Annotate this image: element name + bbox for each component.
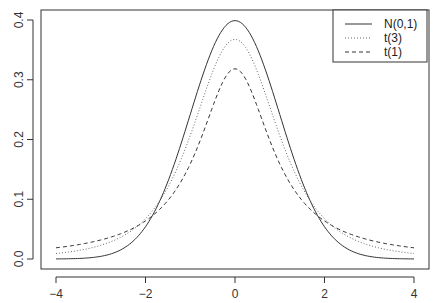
density-chart: −4−2024 0.00.10.20.30.4 N(0,1) t(3) t(1): [0, 0, 437, 303]
x-tick-label: −2: [139, 287, 153, 301]
x-tick-label: 4: [411, 287, 418, 301]
x-tick-label: 0: [232, 287, 239, 301]
y-tick-label: 0.2: [12, 131, 26, 148]
legend: N(0,1) t(3) t(1): [333, 10, 427, 62]
y-axis: 0.00.10.20.30.4: [12, 11, 33, 267]
legend-label-normal: N(0,1): [384, 17, 417, 31]
legend-label-t1: t(1): [384, 45, 402, 59]
x-tick-label: 2: [321, 287, 328, 301]
y-tick-label: 0.3: [12, 71, 26, 88]
y-tick-label: 0.4: [12, 11, 26, 28]
y-tick-label: 0.0: [12, 250, 26, 267]
y-tick-label: 0.1: [12, 191, 26, 208]
x-axis: −4−2024: [49, 277, 418, 301]
legend-label-t3: t(3): [384, 31, 402, 45]
curve-t-3-: [56, 39, 414, 253]
curve-t-1-: [56, 69, 414, 248]
x-tick-label: −4: [49, 287, 63, 301]
